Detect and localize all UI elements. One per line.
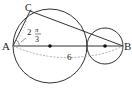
point-label-B: B [124,40,131,52]
point-label-A: A [2,40,10,52]
angle-arc-dashed [16,20,27,44]
length-label: 6 [67,52,72,62]
angle-denominator: 3 [35,35,39,44]
angle-coefficient: 2 [27,27,32,37]
small-circle-center [103,44,107,48]
angle-pointer [21,38,26,42]
geometry-diagram: A B C 2 π 3 6 [0,0,132,91]
point-label-C: C [25,2,32,13]
angle-numerator: π [35,26,39,34]
large-circle-center [48,44,52,48]
